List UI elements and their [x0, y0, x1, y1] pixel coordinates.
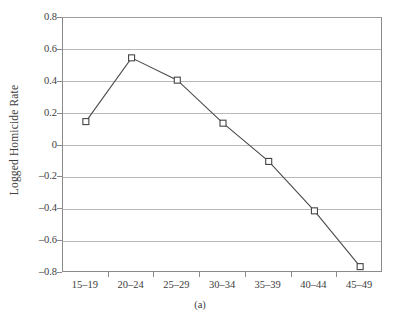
y-axis-tick-label: 0.2	[17, 107, 57, 118]
y-axis-tick-label: 0.6	[17, 44, 57, 55]
y-axis-tick-label: –0.4	[17, 203, 57, 214]
series-line	[86, 58, 360, 267]
chart-figure: Logged Homicide Rate 0.80.60.40.20–0.2–0…	[0, 0, 400, 324]
plot-area	[62, 17, 382, 272]
data-point-marker	[357, 264, 363, 270]
x-axis-tick-label: 45–49	[329, 280, 389, 291]
y-axis-tick-label: 0.4	[17, 76, 57, 87]
data-point-marker	[220, 120, 226, 126]
y-axis-tick-label: –0.2	[17, 171, 57, 182]
y-axis-tick-label: –0.8	[17, 267, 57, 278]
data-point-marker	[311, 208, 317, 214]
y-axis-tick-label: –0.6	[17, 235, 57, 246]
figure-caption: (a)	[0, 299, 400, 310]
y-axis-tick-label: 0.8	[17, 12, 57, 23]
data-point-marker	[266, 158, 272, 164]
y-axis-tick-mark	[57, 272, 62, 273]
y-axis-tick-label: 0	[17, 139, 57, 150]
data-point-marker	[174, 77, 180, 83]
data-point-marker	[129, 55, 135, 61]
series-overlay	[63, 18, 383, 273]
data-point-marker	[83, 119, 89, 125]
series-markers	[83, 55, 363, 270]
